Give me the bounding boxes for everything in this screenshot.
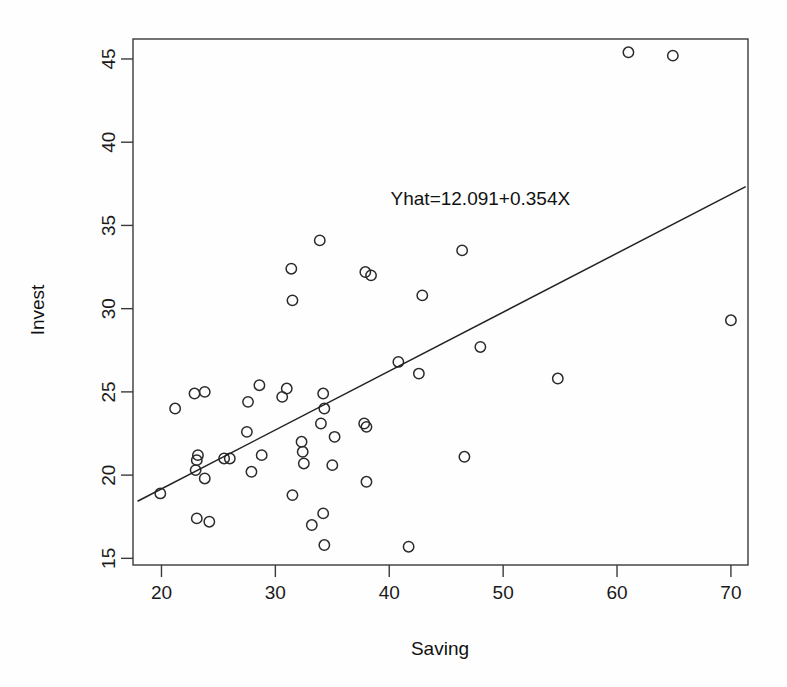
plot-frame — [133, 39, 748, 565]
x-axis-title: Saving — [411, 638, 469, 659]
data-point — [287, 295, 297, 305]
data-point — [457, 245, 467, 255]
data-point — [170, 403, 180, 413]
data-point — [414, 368, 424, 378]
data-point — [318, 388, 328, 398]
data-point — [256, 450, 266, 460]
data-point — [282, 383, 292, 393]
y-axis-title: Invest — [27, 284, 48, 335]
data-point — [319, 540, 329, 550]
data-point-series — [155, 47, 736, 552]
data-point — [287, 490, 297, 500]
data-point — [459, 452, 469, 462]
data-point — [254, 380, 264, 390]
data-point — [297, 447, 307, 457]
y-tick-label: 15 — [99, 548, 120, 569]
data-point — [318, 508, 328, 518]
x-tick-label: 20 — [151, 582, 172, 603]
plot-border — [133, 39, 748, 565]
regression-equation-label: Yhat=12.091+0.354X — [391, 188, 571, 209]
data-point — [361, 477, 371, 487]
data-point — [204, 517, 214, 527]
y-tick-label: 30 — [99, 298, 120, 319]
x-tick-label: 30 — [265, 582, 286, 603]
data-point — [475, 342, 485, 352]
data-point — [189, 388, 199, 398]
y-tick-label: 25 — [99, 381, 120, 402]
data-point — [329, 432, 339, 442]
y-tick-label: 20 — [99, 465, 120, 486]
data-point — [307, 520, 317, 530]
x-tick-label: 70 — [720, 582, 741, 603]
data-point — [668, 50, 678, 60]
data-point — [200, 473, 210, 483]
y-tick-label: 35 — [99, 215, 120, 236]
least-squares-regression-line — [138, 187, 746, 502]
x-tick-label: 60 — [606, 582, 627, 603]
plot-canvas: 203040506070 15202530354045 Yhat=12.091+… — [0, 0, 787, 687]
data-point — [299, 458, 309, 468]
data-point — [417, 290, 427, 300]
y-tick-label: 45 — [99, 48, 120, 69]
x-tick-label: 50 — [493, 582, 514, 603]
data-point — [246, 467, 256, 477]
data-point — [286, 264, 296, 274]
data-point — [553, 373, 563, 383]
data-point — [623, 47, 633, 57]
y-axis-ticks: 15202530354045 — [99, 48, 134, 569]
data-point — [327, 460, 337, 470]
data-point — [192, 513, 202, 523]
scatterplot-figure: 203040506070 15202530354045 Yhat=12.091+… — [0, 0, 787, 687]
data-point — [403, 541, 413, 551]
x-tick-label: 40 — [379, 582, 400, 603]
data-point — [243, 397, 253, 407]
x-axis-ticks: 203040506070 — [151, 565, 742, 603]
data-point — [200, 387, 210, 397]
y-tick-label: 40 — [99, 132, 120, 153]
annotation-group: Yhat=12.091+0.354X — [391, 188, 571, 209]
data-point — [316, 418, 326, 428]
data-point — [296, 437, 306, 447]
data-point — [315, 235, 325, 245]
regression-line-group — [138, 187, 746, 502]
data-point — [726, 315, 736, 325]
data-point — [361, 422, 371, 432]
data-point — [242, 427, 252, 437]
